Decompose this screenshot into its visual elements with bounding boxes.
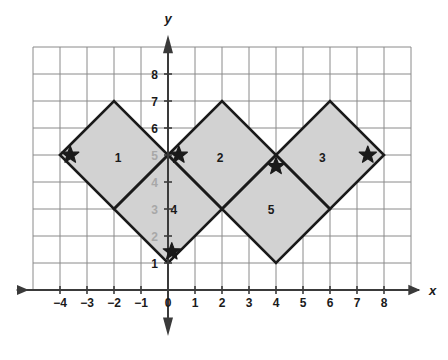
y-axis-title: y <box>163 11 172 26</box>
x-tick-label-5: 5 <box>300 296 307 310</box>
x-tick-label-4: 4 <box>273 296 280 310</box>
x-tick-label-1: 1 <box>192 296 199 310</box>
x-tick-label-2: 2 <box>219 296 226 310</box>
x-tick-label--4: −4 <box>53 296 67 310</box>
y-tick-label-5: 5 <box>151 149 158 163</box>
x-tick-label-6: 6 <box>327 296 334 310</box>
region-label-5: 5 <box>268 203 275 217</box>
x-tick-label-3: 3 <box>246 296 253 310</box>
region-label-1: 1 <box>115 151 122 165</box>
x-tick-label--3: −3 <box>80 296 94 310</box>
x-tick-label--1: −1 <box>134 296 148 310</box>
y-axis-arrow-up <box>163 35 173 53</box>
coordinate-plane-svg: −4−3−2−101234567812345678 12345 xy <box>0 0 448 360</box>
x-tick-label-8: 8 <box>381 296 388 310</box>
region-label-4: 4 <box>171 203 178 217</box>
x-axis-title: x <box>428 283 437 298</box>
y-tick-label-6: 6 <box>151 122 158 136</box>
y-tick-label-1: 1 <box>151 257 158 271</box>
coordinate-plane-figure: −4−3−2−101234567812345678 12345 xy <box>0 0 448 360</box>
y-tick-label-2: 2 <box>151 230 158 244</box>
y-tick-label-4: 4 <box>151 176 158 190</box>
region-label-2: 2 <box>217 151 224 165</box>
y-tick-label-7: 7 <box>151 95 158 109</box>
y-axis-arrow-down <box>163 317 173 335</box>
y-tick-label-8: 8 <box>151 68 158 82</box>
x-tick-label--2: −2 <box>107 296 121 310</box>
region-label-3: 3 <box>319 151 326 165</box>
y-tick-label-3: 3 <box>151 203 158 217</box>
x-tick-label-0: 0 <box>165 296 172 310</box>
x-tick-label-7: 7 <box>354 296 361 310</box>
